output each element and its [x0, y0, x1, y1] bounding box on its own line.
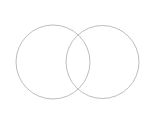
venn-diagram: [0, 0, 148, 121]
right-circle: [66, 26, 139, 99]
left-circle: [16, 25, 90, 99]
venn-diagram-canvas: [0, 0, 148, 121]
